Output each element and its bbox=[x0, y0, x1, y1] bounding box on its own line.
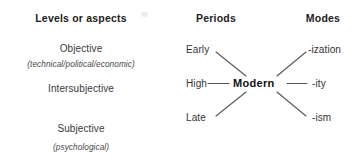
level-qualifier-objective: (technical/political/economic) bbox=[27, 60, 135, 68]
level-label-subjective: Subjective bbox=[57, 124, 104, 134]
spoke-ization bbox=[277, 52, 306, 76]
level-label-intersubjective: Intersubjective bbox=[48, 84, 114, 94]
column-heading-periods: Periods bbox=[196, 13, 236, 24]
column-heading-modes: Modes bbox=[306, 13, 340, 24]
mode-node-ization[interactable]: -ization bbox=[308, 45, 341, 55]
diagram-canvas: Levels or aspects Periods Modes Objectiv… bbox=[0, 0, 361, 165]
spoke-ism bbox=[277, 92, 306, 116]
period-node-late[interactable]: Late bbox=[186, 113, 206, 123]
level-qualifier-subjective: (psychological) bbox=[53, 143, 109, 151]
mode-node-ity[interactable]: -ity bbox=[312, 79, 326, 89]
spoke-early bbox=[216, 52, 246, 76]
period-node-early[interactable]: Early bbox=[186, 45, 209, 55]
mode-node-ism[interactable]: -ism bbox=[312, 113, 331, 123]
column-heading-levels: Levels or aspects bbox=[35, 13, 127, 24]
period-node-high[interactable]: High bbox=[186, 79, 207, 89]
level-label-objective: Objective bbox=[60, 44, 103, 54]
scan-speckle bbox=[141, 12, 148, 17]
spoke-late bbox=[216, 92, 246, 116]
hub-node-modern[interactable]: Modern bbox=[233, 78, 275, 89]
